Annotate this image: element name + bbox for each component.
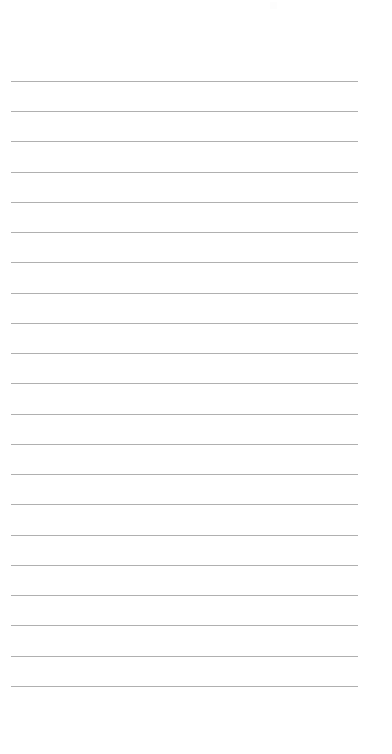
rule-line (11, 595, 358, 596)
rule-line (11, 444, 358, 445)
rule-line (11, 656, 358, 657)
page-footer-blank-area (0, 687, 392, 754)
rule-line (11, 172, 358, 173)
rule-line (11, 383, 358, 384)
rule-line (11, 111, 358, 112)
rule-line (11, 202, 358, 203)
rule-line (11, 293, 358, 294)
rule-line (11, 353, 358, 354)
rule-line (11, 141, 358, 142)
rule-line (11, 565, 358, 566)
rule-line (11, 323, 358, 324)
rule-line (11, 414, 358, 415)
rule-line (11, 232, 358, 233)
rule-line (11, 504, 358, 505)
rule-line (11, 262, 358, 263)
rule-line (11, 474, 358, 475)
ruled-lines-container (0, 0, 392, 754)
rule-line (11, 625, 358, 626)
lined-paper-page (0, 0, 392, 754)
rule-line (11, 535, 358, 536)
rule-line (11, 81, 358, 82)
